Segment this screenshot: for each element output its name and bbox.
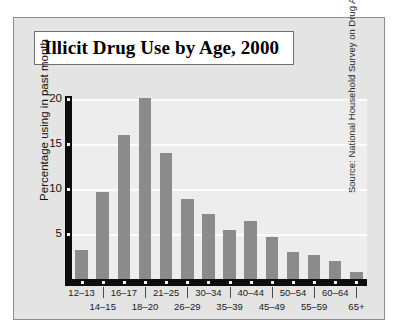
y-axis-line xyxy=(65,96,72,282)
y-tick-label: 20 xyxy=(49,93,62,105)
bar-slot xyxy=(156,99,177,279)
bar xyxy=(202,214,214,279)
x-tick-mark xyxy=(271,281,274,284)
x-tick-mark xyxy=(250,281,253,284)
x-tick-mark xyxy=(313,281,316,284)
bar xyxy=(139,98,151,279)
bar xyxy=(96,192,108,279)
x-tick-label: 12–13 xyxy=(68,287,94,298)
y-tick-label: 15 xyxy=(49,138,62,150)
x-tick-mark xyxy=(165,281,168,284)
bar-slot xyxy=(198,99,219,279)
x-tick-label: 14–15 xyxy=(89,301,115,312)
y-tick-label: 5 xyxy=(56,228,62,240)
chart-panel: Illicit Drug Use by Age, 2000 Percentage… xyxy=(13,17,385,320)
x-tick-label: 65+ xyxy=(348,301,364,312)
x-tick-mark xyxy=(207,281,210,284)
page-title: Illicit Drug Use by Age, 2000 xyxy=(44,37,279,59)
bar-slot xyxy=(282,99,303,279)
x-tick-mark xyxy=(144,281,147,284)
bar xyxy=(244,221,256,279)
x-tick-label: 26–29 xyxy=(174,301,200,312)
y-axis-tick-labels: 5101520 xyxy=(34,88,62,288)
bar-slot xyxy=(177,99,198,279)
bar xyxy=(75,250,87,279)
x-axis-tick-labels: 12–1314–1516–1718–2021–2526–2930–3435–39… xyxy=(71,287,367,323)
y-tick-mark xyxy=(67,233,70,236)
x-tick-mark xyxy=(355,281,358,284)
x-label-separator xyxy=(103,287,104,298)
bar xyxy=(181,199,193,279)
bar-slot xyxy=(304,99,325,279)
bar xyxy=(287,252,299,279)
x-tick-mark xyxy=(186,281,189,284)
bar-slot xyxy=(134,99,155,279)
plot-area xyxy=(71,99,367,279)
chart-figure: Illicit Drug Use by Age, 2000 Percentage… xyxy=(0,0,411,336)
bar-slot xyxy=(92,99,113,279)
source-note: Source: National Household Survey on Dru… xyxy=(346,0,357,193)
x-label-separator xyxy=(356,287,357,298)
x-tick-label: 21–25 xyxy=(153,287,179,298)
x-tick-mark xyxy=(102,281,105,284)
x-tick-label: 30–34 xyxy=(195,287,221,298)
x-label-separator xyxy=(145,287,146,298)
bar-slot xyxy=(325,99,346,279)
bar-slot xyxy=(71,99,92,279)
bar xyxy=(329,261,341,279)
bar xyxy=(350,272,362,279)
y-tick-mark xyxy=(67,188,70,191)
bar xyxy=(118,135,130,279)
x-label-separator xyxy=(230,287,231,298)
x-tick-label: 40–44 xyxy=(237,287,263,298)
x-tick-mark xyxy=(81,281,84,284)
y-tick-mark xyxy=(67,143,70,146)
x-tick-label: 60–64 xyxy=(322,287,348,298)
x-axis-line xyxy=(65,279,367,286)
x-tick-mark xyxy=(292,281,295,284)
x-tick-label: 50–54 xyxy=(280,287,306,298)
bar-slot xyxy=(240,99,261,279)
x-tick-label: 55–59 xyxy=(301,301,327,312)
x-tick-label: 45–49 xyxy=(259,301,285,312)
x-tick-mark xyxy=(229,281,232,284)
x-tick-mark xyxy=(334,281,337,284)
bar-slot xyxy=(219,99,240,279)
x-label-separator xyxy=(187,287,188,298)
bar xyxy=(266,237,278,279)
x-tick-label: 16–17 xyxy=(111,287,137,298)
x-tick-label: 35–39 xyxy=(216,301,242,312)
y-tick-label: 10 xyxy=(49,183,62,195)
x-tick-label: 18–20 xyxy=(132,301,158,312)
bar-slot xyxy=(261,99,282,279)
bar-slot xyxy=(113,99,134,279)
x-label-separator xyxy=(314,287,315,298)
bar xyxy=(223,230,235,280)
x-tick-mark xyxy=(123,281,126,284)
bar xyxy=(308,255,320,279)
bar xyxy=(160,153,172,279)
chart-title-box: Illicit Drug Use by Age, 2000 xyxy=(34,31,294,65)
bar-series xyxy=(71,99,367,279)
y-tick-mark xyxy=(67,98,70,101)
x-label-separator xyxy=(272,287,273,298)
